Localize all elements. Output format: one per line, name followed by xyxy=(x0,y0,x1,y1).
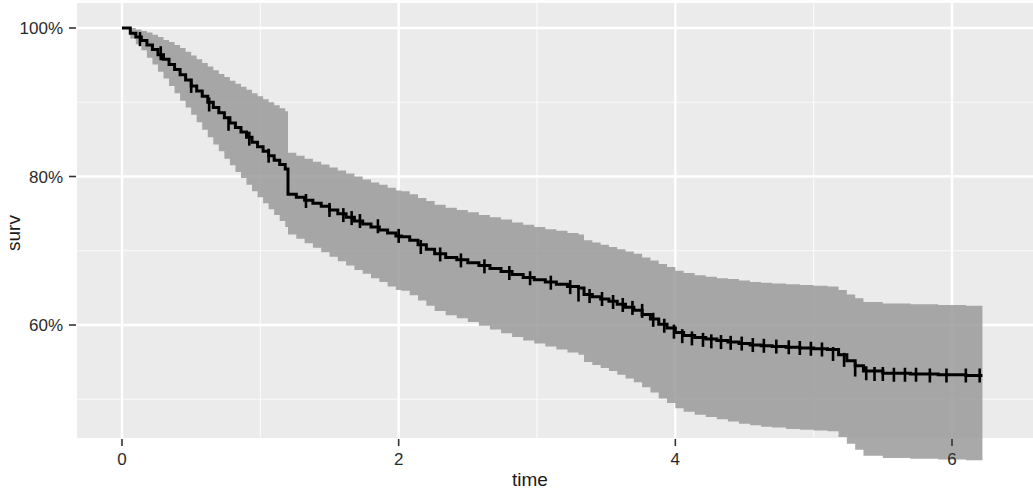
x-tick-label: 0 xyxy=(117,450,126,469)
x-tick-label: 4 xyxy=(671,450,680,469)
y-tick-label: 80% xyxy=(29,168,63,187)
x-axis-title: time xyxy=(512,469,548,490)
x-tick-label: 6 xyxy=(947,450,956,469)
y-tick-label: 60% xyxy=(29,316,63,335)
survival-curve-chart: 0246 60%80%100% time surv xyxy=(0,0,1033,493)
y-axis-title: surv xyxy=(3,215,24,251)
survival-plot-container: 0246 60%80%100% time surv xyxy=(0,0,1033,493)
y-tick-label: 100% xyxy=(20,19,63,38)
x-tick-label: 2 xyxy=(394,450,403,469)
